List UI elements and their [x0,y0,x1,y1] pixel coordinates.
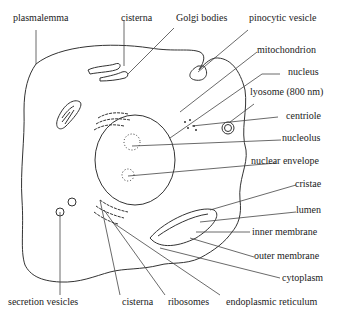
label-cytoplasm: cytoplasm [282,272,323,284]
label-secretion-vesicles: secretion vesicles [8,296,78,308]
label-ribosomes: ribosomes [168,296,209,308]
nucleus-shape [95,115,175,205]
label-lysosome: lyosome (800 nm) [250,86,323,98]
label-lumen: lumen [296,204,321,216]
label-cisterna-bottom: cisterna [122,296,153,308]
label-nucleolus: nucleolus [282,132,320,144]
label-nucleus: nucleus [288,66,319,78]
lysosome-shape [222,122,234,134]
label-endoplasmic-reticulum: endoplasmic reticulum [226,296,317,308]
golgi-top [88,63,120,74]
cell-diagram: plasmalemma cisterna Golgi bodies pinocy… [0,0,340,316]
pinocytic-vesicle [190,66,207,80]
label-cisterna-top: cisterna [121,12,152,24]
plasmalemma-outline [22,45,247,282]
label-cristae: cristae [295,178,321,190]
label-mitochondrion: mitochondrion [257,44,316,56]
label-plasmalemma: plasmalemma [13,12,69,24]
label-centriole: centriole [286,110,321,122]
mitochondrion-left [57,101,81,129]
label-inner-membrane: inner membrane [252,226,317,238]
label-outer-membrane: outer membrane [254,250,319,262]
label-nuclear-envelope: nuclear envelope [251,155,319,167]
label-pinocytic-vesicle: pinocytic vesicle [249,12,316,24]
label-golgi-bodies: Golgi bodies [176,12,227,24]
